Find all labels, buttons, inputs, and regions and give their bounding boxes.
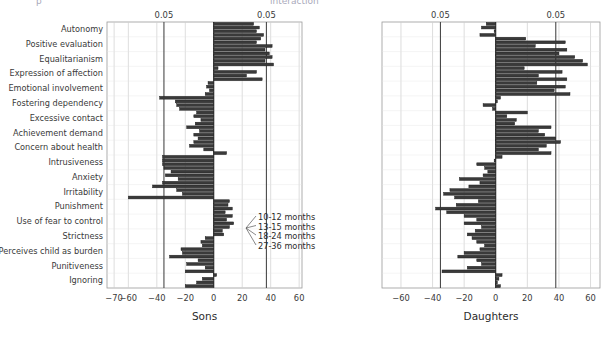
- bar-sons-14-1: [214, 233, 224, 236]
- bar-sons-13-0: [214, 215, 233, 218]
- bar-sons-6-2: [201, 118, 214, 121]
- xtick-daughters-0: −60: [385, 293, 417, 303]
- bar-sons-1-2: [214, 45, 272, 48]
- bar-daughters-2-2: [496, 59, 583, 62]
- bar-sons-0-2: [214, 30, 257, 33]
- bar-sons-10-2: [178, 178, 214, 181]
- category-label-4: Emotional involvement: [8, 84, 103, 92]
- bar-sons-14-3: [201, 240, 214, 243]
- bar-sons-8-3: [214, 152, 227, 155]
- bar-daughters-6-3: [496, 122, 515, 125]
- bar-daughters-5-1: [496, 100, 498, 103]
- bar-sons-8-0: [194, 141, 214, 144]
- bar-daughters-15-1: [480, 248, 496, 251]
- xtick-daughters-2: −20: [448, 293, 480, 303]
- bar-daughters-0-2: [494, 30, 496, 33]
- bar-sons-16-2: [205, 266, 214, 269]
- bar-daughters-1-2: [496, 45, 535, 48]
- bar-sons-12-0: [214, 200, 230, 203]
- bar-daughters-15-3: [458, 255, 496, 258]
- bar-sons-16-0: [198, 259, 214, 262]
- bar-sons-2-2: [214, 59, 265, 62]
- pvalue-label-sons-0: 0.05: [151, 10, 177, 20]
- bar-daughters-10-1: [483, 174, 496, 177]
- bar-daughters-6-2: [496, 118, 517, 121]
- bar-daughters-4-3: [496, 93, 570, 96]
- xtick-daughters-6: 60: [575, 293, 607, 303]
- bar-daughters-10-3: [480, 181, 496, 184]
- bar-daughters-10-2: [459, 178, 495, 181]
- bar-sons-12-1: [214, 203, 228, 206]
- bar-sons-12-2: [214, 207, 233, 210]
- bar-sons-8-1: [190, 144, 214, 147]
- xtick-sons-7: 60: [283, 293, 315, 303]
- category-label-14: Strictness: [62, 232, 103, 240]
- bar-sons-15-0: [202, 244, 213, 247]
- bar-daughters-14-0: [475, 229, 496, 232]
- bar-daughters-4-0: [496, 82, 537, 85]
- bar-daughters-16-0: [477, 259, 496, 262]
- bar-daughters-8-1: [496, 144, 547, 147]
- category-label-8: Concern about health: [14, 143, 103, 151]
- bar-sons-4-1: [207, 85, 214, 88]
- bar-daughters-11-2: [444, 192, 496, 195]
- category-label-15: Perceives child as burden: [0, 247, 103, 255]
- bar-daughters-1-3: [496, 48, 567, 51]
- bar-sons-11-3: [128, 196, 213, 199]
- bar-sons-13-3: [214, 226, 230, 229]
- bar-daughters-7-3: [496, 137, 556, 140]
- xtick-daughters-5: 40: [543, 293, 575, 303]
- bar-sons-2-3: [214, 63, 274, 66]
- category-label-1: Positive evaluation: [26, 40, 103, 48]
- axis-label-sons: Sons: [107, 310, 302, 322]
- bar-sons-10-0: [171, 170, 214, 173]
- bar-daughters-5-2: [483, 104, 496, 107]
- bar-daughters-14-3: [477, 240, 496, 243]
- bar-daughters-2-0: [496, 52, 559, 55]
- bar-sons-1-1: [214, 41, 257, 44]
- bar-daughters-16-1: [482, 263, 496, 266]
- bar-sons-0-0: [214, 22, 254, 25]
- bar-sons-7-0: [187, 126, 214, 129]
- bar-daughters-0-0: [486, 22, 495, 25]
- bar-daughters-9-1: [494, 159, 496, 162]
- bar-daughters-0-3: [480, 34, 496, 37]
- category-label-12: Punishment: [55, 202, 103, 210]
- bar-daughters-14-1: [467, 233, 495, 236]
- bar-sons-5-1: [175, 100, 213, 103]
- xtick-sons-4: 0: [198, 293, 230, 303]
- bar-sons-1-3: [214, 48, 265, 51]
- bar-sons-14-2: [205, 237, 214, 240]
- category-label-3: Expression of affection: [10, 69, 103, 77]
- bar-sons-13-1: [214, 218, 227, 221]
- bar-daughters-16-2: [467, 266, 495, 269]
- xtick-sons-6: 40: [255, 293, 287, 303]
- bar-sons-9-2: [163, 163, 214, 166]
- legend-entry-2: 18-24 months: [258, 231, 315, 241]
- bar-daughters-5-3: [493, 107, 496, 110]
- bar-sons-3-2: [214, 74, 247, 77]
- bar-sons-6-3: [195, 122, 214, 125]
- pvalue-label-daughters-0: 0.05: [427, 10, 453, 20]
- bar-daughters-9-3: [485, 167, 496, 170]
- bar-daughters-15-0: [485, 244, 496, 247]
- bar-sons-6-0: [197, 111, 214, 114]
- category-label-13: Use of fear to control: [16, 217, 103, 225]
- bar-daughters-0-1: [482, 26, 496, 29]
- bar-sons-14-0: [214, 229, 223, 232]
- bar-daughters-3-0: [496, 67, 524, 70]
- legend-entry-1: 13-15 months: [258, 222, 315, 232]
- bar-daughters-12-2: [436, 207, 496, 210]
- category-label-6: Excessive contact: [30, 114, 103, 122]
- xtick-daughters-1: −40: [417, 293, 449, 303]
- legend-entry-3: 27-36 months: [258, 241, 315, 251]
- bar-sons-17-2: [197, 281, 214, 284]
- bar-daughters-11-3: [455, 196, 496, 199]
- bar-sons-5-2: [177, 104, 214, 107]
- bar-daughters-7-1: [496, 130, 539, 133]
- bar-daughters-7-0: [496, 126, 551, 129]
- bar-sons-5-0: [160, 96, 214, 99]
- bar-chart-figure: p interaction AutonomyPositive evaluatio…: [0, 0, 608, 343]
- bar-sons-10-3: [163, 181, 214, 184]
- bar-sons-2-0: [214, 52, 270, 55]
